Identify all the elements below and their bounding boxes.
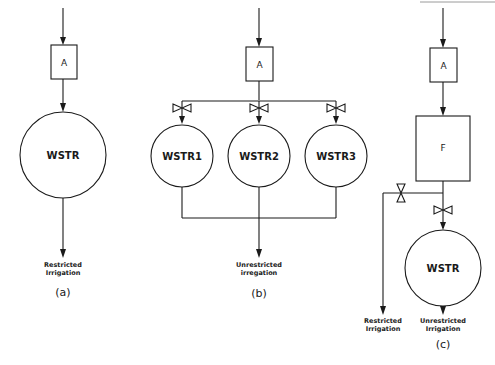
panel-caption: (c): [436, 338, 451, 351]
arrow-down-icon: [179, 116, 185, 124]
filter-box-label: F: [440, 143, 445, 153]
arrow-down-icon: [256, 38, 262, 47]
output-left-line1: Restricted: [364, 317, 402, 325]
arrow-down-icon: [440, 306, 446, 315]
arrow-down-icon: [333, 116, 339, 124]
reservoir-label: WSTR: [427, 263, 460, 274]
panel-b: A WSTR1 WSTR2 WSTR3 Unrestricted irregat…: [151, 8, 367, 300]
reservoir-label: WSTR2: [239, 151, 279, 162]
output-right-line2: Irrigation: [426, 325, 461, 333]
arrow-down-icon: [440, 107, 446, 116]
output-label-line1: Unrestricted: [236, 261, 282, 269]
panel-caption: (a): [55, 286, 70, 299]
diagram-canvas: A WSTR Restricted Irrigation (a) A WSTR1: [0, 0, 495, 365]
reservoir-label: WSTR3: [316, 151, 356, 162]
reservoir-label: WSTR: [47, 150, 80, 161]
panel-c: A F WSTR Restricted Irrigation Unrestric…: [364, 8, 481, 351]
panel-caption: (b): [251, 287, 267, 300]
treatment-box-label: A: [440, 61, 447, 71]
panel-a: A WSTR Restricted Irrigation (a): [20, 8, 106, 299]
treatment-box-label: A: [256, 60, 263, 70]
output-label-line1: Restricted: [44, 261, 82, 269]
output-right-line1: Unrestricted: [420, 317, 466, 325]
arrow-down-icon: [440, 222, 446, 230]
reservoir-label: WSTR1: [162, 151, 202, 162]
output-label-line2: Irrigation: [46, 269, 81, 277]
treatment-box-label: A: [61, 58, 68, 68]
arrow-down-icon: [380, 306, 386, 315]
arrow-down-icon: [60, 37, 66, 45]
arrow-down-icon: [256, 249, 262, 258]
arrow-down-icon: [60, 249, 66, 258]
arrow-down-icon: [440, 39, 446, 48]
output-label-line2: irregation: [241, 269, 278, 277]
output-left-line2: Irrigation: [366, 325, 401, 333]
arrow-down-icon: [256, 116, 262, 124]
arrow-down-icon: [60, 103, 66, 112]
